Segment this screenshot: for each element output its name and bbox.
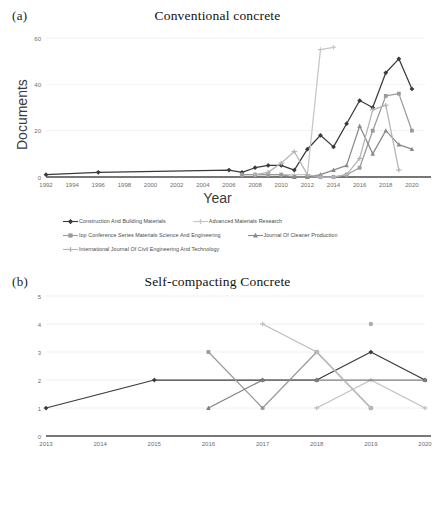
x-tick-label: 2006: [222, 182, 236, 188]
line-chart-b: 01234520132014201520162017201820192020: [0, 266, 435, 466]
data-point-marker: [197, 218, 203, 223]
data-point-marker: [357, 98, 362, 103]
series-line: [208, 380, 425, 408]
data-point-marker: [357, 124, 362, 128]
series-line: [317, 380, 425, 408]
legend-item[interactable]: International Journal Of Civil Engineeri…: [62, 245, 219, 254]
line-chart-a: 0204060199219941996199820002002200420062…: [0, 0, 435, 205]
x-tick-label: 2002: [170, 182, 184, 188]
data-point-marker: [331, 45, 336, 50]
data-point-marker: [410, 87, 415, 92]
data-point-marker: [384, 94, 388, 98]
y-tick-label: 5: [38, 294, 42, 300]
data-point-marker: [344, 163, 349, 167]
y-tick-label: 0: [38, 434, 42, 440]
data-point-marker: [68, 233, 72, 237]
data-point-marker: [96, 170, 101, 175]
legend-item[interactable]: Iop Conference Series Materials Science …: [62, 231, 221, 240]
y-tick-label: 2: [38, 378, 42, 384]
x-tick-label: 1996: [92, 182, 106, 188]
series-line: [263, 324, 371, 408]
data-point-marker: [227, 168, 232, 173]
legend-row: Iop Conference Series Materials Science …: [0, 228, 435, 242]
x-tick-label: 2004: [196, 182, 210, 188]
data-point-marker: [358, 166, 362, 170]
legend-item[interactable]: Advanced Materials Research: [192, 217, 282, 226]
data-point-marker: [371, 129, 375, 133]
data-point-marker: [383, 103, 388, 108]
legend-item[interactable]: Journal Of Cleaner Production: [247, 231, 338, 240]
data-point-marker: [410, 129, 414, 133]
legend-row: Construction And Building MaterialsAdvan…: [0, 214, 435, 228]
data-point-marker: [369, 322, 373, 326]
x-tick-label: 2020: [418, 441, 432, 447]
legend-label: Construction And Building Materials: [79, 218, 166, 224]
legend-a: Construction And Building MaterialsAdvan…: [0, 214, 435, 256]
data-point-marker: [368, 350, 373, 355]
legend-marker-triangle: [247, 231, 264, 240]
legend-marker-square: [62, 231, 79, 240]
x-tick-label: 2000: [144, 182, 158, 188]
data-point-marker: [344, 121, 349, 126]
y-tick-label: 60: [34, 36, 41, 42]
x-tick-label: 2016: [353, 182, 367, 188]
x-tick-label: 2015: [148, 441, 162, 447]
data-point-marker: [240, 173, 244, 177]
plot-area-a: 0204060199219941996199820002002200420062…: [0, 0, 435, 205]
legend-row: International Journal Of Civil Engineeri…: [0, 242, 435, 256]
x-tick-label: 1994: [65, 182, 79, 188]
y-tick-label: 3: [38, 350, 42, 356]
x-tick-label: 2019: [364, 441, 378, 447]
y-tick-label: 40: [34, 82, 41, 88]
series-line: [46, 59, 412, 175]
legend-item[interactable]: Construction And Building Materials: [62, 217, 166, 226]
x-tick-label: 1992: [39, 182, 53, 188]
data-point-marker: [68, 246, 74, 251]
legend-marker-plus: [192, 217, 209, 226]
legend-label: Advanced Materials Research: [209, 218, 282, 224]
x-tick-label: 2018: [379, 182, 393, 188]
data-point-marker: [261, 406, 265, 410]
x-tick-label: 2020: [405, 182, 419, 188]
y-axis-title-a: Documents: [14, 79, 30, 150]
chart-panel-b: (b) Self-compacting Concrete 01234520132…: [0, 266, 435, 522]
data-point-marker: [279, 173, 283, 177]
chart-panel-a: (a) Conventional concrete 02040601992199…: [0, 0, 435, 266]
data-point-marker: [266, 163, 271, 168]
x-tick-label: 2017: [256, 441, 270, 447]
data-point-marker: [207, 350, 211, 354]
y-tick-label: 1: [38, 406, 42, 412]
data-point-marker: [44, 406, 49, 411]
data-point-marker: [318, 47, 323, 52]
x-tick-label: 2016: [202, 441, 216, 447]
x-tick-label: 2014: [327, 182, 341, 188]
data-point-marker: [68, 218, 73, 223]
x-tick-label: 2013: [39, 441, 53, 447]
legend-label: Journal Of Cleaner Production: [264, 232, 338, 238]
data-point-marker: [253, 165, 258, 170]
data-point-marker: [370, 108, 375, 113]
x-tick-label: 2018: [310, 441, 324, 447]
x-tick-label: 2008: [248, 182, 262, 188]
x-tick-label: 2014: [93, 441, 107, 447]
data-point-marker: [397, 92, 401, 96]
legend-label: International Journal Of Civil Engineeri…: [79, 246, 219, 252]
legend-label: Iop Conference Series Materials Science …: [79, 232, 221, 238]
x-tick-label: 2010: [275, 182, 289, 188]
x-tick-label: 2012: [301, 182, 315, 188]
x-tick-label: 1998: [118, 182, 132, 188]
x-axis-title-a: Year: [0, 190, 435, 206]
series-line: [242, 47, 333, 174]
y-tick-label: 0: [38, 175, 42, 181]
legend-marker-diamond: [62, 217, 79, 226]
y-tick-label: 4: [38, 322, 42, 328]
legend-marker-plus: [62, 245, 79, 254]
y-tick-label: 20: [34, 128, 41, 134]
data-point-marker: [152, 378, 157, 383]
plot-area-b: 01234520132014201520162017201820192020: [0, 266, 435, 466]
data-point-marker: [396, 168, 401, 173]
